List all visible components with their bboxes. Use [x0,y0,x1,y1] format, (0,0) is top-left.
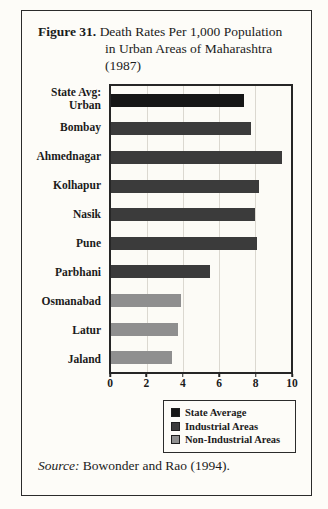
category-label: Bombay [22,113,107,142]
legend-label: State Average [185,407,246,418]
legend-swatch-icon [171,408,180,417]
chart-row [111,229,291,258]
legend-swatch-icon [171,422,180,431]
category-label: Ahmednagar [22,142,107,171]
title-line-1: Figure 31. Death Rates Per 1,000 Populat… [38,23,302,40]
figure-border: Figure 31. Death Rates Per 1,000 Populat… [21,10,312,496]
figure-title: Figure 31. Death Rates Per 1,000 Populat… [38,23,302,74]
x-tick-label: 0 [107,377,113,389]
category-label: Parbhani [22,258,107,287]
chart-row [111,143,291,172]
source-label: Source: [38,458,79,473]
x-tick-label: 10 [286,377,298,389]
chart-row [111,286,291,315]
x-tick-label: 2 [144,377,150,389]
figure-label: Figure 31. [38,24,96,39]
category-label: Nasik [22,200,107,229]
x-tick-label: 4 [180,377,186,389]
x-axis: 0246810 [110,374,292,392]
legend-label: Non-Industrial Areas [185,434,280,445]
bar [111,180,259,193]
bar [111,351,172,364]
legend-item: Non-Industrial Areas [171,433,290,447]
bar [111,265,210,278]
category-label: State Avg: Urban [22,84,107,113]
category-label: Pune [22,229,107,258]
legend-swatch-icon [171,435,180,444]
bar [111,122,251,135]
source-text: Bowonder and Rao (1994). [79,458,229,473]
legend-item: Industrial Areas [171,420,290,434]
title-text-2: in Urban Areas of Maharashtra [38,40,302,57]
category-axis: State Avg: UrbanBombayAhmednagarKolhapur… [22,84,107,374]
x-tick-label: 6 [216,377,222,389]
chart-row [111,343,291,372]
x-tick-label: 8 [253,377,259,389]
chart-row [111,172,291,201]
category-label: Latur [22,316,107,345]
category-label: Kolhapur [22,171,107,200]
bar [111,323,178,336]
chart-row [111,200,291,229]
chart-row [111,258,291,287]
bar [111,151,282,164]
bar [111,94,244,107]
bar [111,237,257,250]
category-label: Osmanabad [22,287,107,316]
bar [111,294,181,307]
legend-item: State Average [171,406,290,420]
plot-area [109,84,293,374]
chart-legend: State AverageIndustrial AreasNon-Industr… [163,400,296,453]
chart-row [111,315,291,344]
chart-row [111,115,291,144]
legend-label: Industrial Areas [185,421,258,432]
bar [111,208,255,221]
chart-row [111,86,291,115]
title-text-3: (1987) [38,57,302,74]
category-label: Jaland [22,345,107,374]
title-text-1: Death Rates Per 1,000 Population [100,24,283,39]
source-note: Source: Bowonder and Rao (1994). [38,458,230,474]
